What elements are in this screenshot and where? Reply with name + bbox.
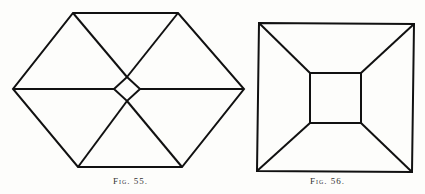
- spoke-line: [73, 13, 127, 77]
- figure-55-hexagon: [13, 13, 244, 167]
- spoke-line: [361, 123, 412, 172]
- figure-page: Fig. 55. Fig. 56.: [0, 0, 425, 194]
- spoke-line: [127, 13, 178, 77]
- figure-56-caption: Fig. 56.: [310, 176, 345, 186]
- spoke-line: [257, 123, 310, 171]
- diagram-canvas: [0, 0, 425, 194]
- spoke-line: [78, 101, 127, 167]
- center-diamond: [114, 77, 140, 101]
- figure-55-caption: Fig. 55.: [113, 176, 148, 186]
- spoke-line: [127, 101, 182, 167]
- inner-square: [310, 73, 361, 123]
- spoke-line: [361, 24, 414, 73]
- spoke-line: [259, 23, 310, 73]
- figure-56-square: [257, 23, 414, 172]
